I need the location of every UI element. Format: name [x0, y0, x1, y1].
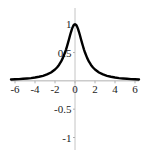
x-tick-label: 4	[112, 83, 118, 95]
plot-canvas: -6-4-20246 -1-0.50.51	[0, 0, 146, 154]
function-plot-figure: -6-4-20246 -1-0.50.51	[0, 0, 146, 154]
x-tick-label: 6	[132, 83, 138, 95]
x-tick-label: -6	[10, 83, 20, 95]
y-tick-label: -1	[62, 132, 71, 144]
x-tick-label: -2	[50, 83, 59, 95]
y-tick-label: 1	[66, 18, 72, 30]
x-tick-label: -4	[30, 83, 40, 95]
x-tick-label: 0	[72, 83, 78, 95]
x-axis-tick-labels: -6-4-20246	[10, 83, 138, 95]
y-tick-label: -0.5	[54, 103, 72, 115]
x-tick-label: 2	[92, 83, 98, 95]
